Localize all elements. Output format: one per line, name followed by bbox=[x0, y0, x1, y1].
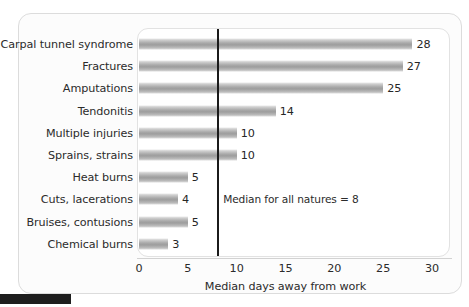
plot-panel bbox=[137, 28, 450, 257]
chart-figure: Carpal tunnel syndrome28Fractures27Amput… bbox=[0, 0, 469, 307]
bottom-edge-strip bbox=[0, 294, 71, 304]
